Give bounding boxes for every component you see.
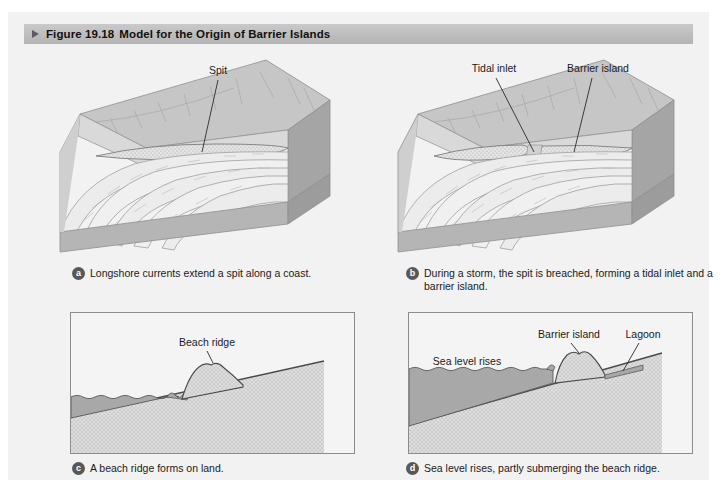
caption-c-text: A beach ridge forms on land. — [90, 462, 402, 475]
caption-c: c A beach ridge forms on land. — [72, 462, 402, 475]
panel-c: Beach ridge — [70, 312, 355, 454]
caption-b-text: During a storm, the spit is breached, fo… — [424, 267, 721, 293]
caption-b: b During a storm, the spit is breached, … — [406, 267, 721, 293]
panel-c-frame: Beach ridge — [70, 312, 355, 454]
barrier-island-label: Barrier island — [538, 328, 600, 340]
panel-b-diagram: Tidal inlet Barrier island — [376, 52, 686, 257]
spit-label: Spit — [209, 64, 227, 76]
figure-title: Model for the Origin of Barrier Islands — [119, 28, 330, 40]
caption-d-text: Sea level rises, partly submerging the b… — [424, 462, 721, 475]
panel-badge-b: b — [406, 267, 419, 280]
panel-a-diagram: Spit — [38, 52, 338, 257]
tidal-inlet-label: Tidal inlet — [472, 62, 517, 74]
figure-number: Figure 19.18 — [46, 28, 114, 40]
figure-page: Figure 19.18 Model for the Origin of Bar… — [0, 0, 721, 491]
triangle-right-icon — [32, 30, 39, 38]
panel-d-diagram: Sea level rises Barrier island Lagoon — [409, 313, 692, 453]
figure-area: Figure 19.18 Model for the Origin of Bar… — [8, 12, 709, 480]
figure-header-bar: Figure 19.18 Model for the Origin of Bar… — [24, 24, 693, 44]
panel-badge-d: d — [406, 462, 419, 475]
panel-badge-c: c — [72, 462, 85, 475]
caption-d: d Sea level rises, partly submerging the… — [406, 462, 721, 475]
panel-d-frame: Sea level rises Barrier island Lagoon — [408, 312, 693, 454]
caption-a: a Longshore currents extend a spit along… — [72, 267, 402, 280]
caption-a-text: Longshore currents extend a spit along a… — [90, 267, 402, 280]
barrier-island-label: Barrier island — [567, 62, 629, 74]
panel-d: Sea level rises Barrier island Lagoon — [408, 312, 693, 454]
panel-badge-a: a — [72, 267, 85, 280]
panel-a: Spit — [38, 52, 338, 257]
panel-b: Tidal inlet Barrier island — [376, 52, 686, 257]
lagoon-label: Lagoon — [625, 328, 660, 340]
panel-c-diagram: Beach ridge — [71, 313, 354, 453]
sea-level-rises-label: Sea level rises — [433, 355, 501, 367]
beach-ridge-label: Beach ridge — [179, 336, 235, 348]
